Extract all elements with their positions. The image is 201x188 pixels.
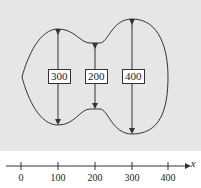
tick-label-200: 200 [88, 172, 103, 183]
width-label-200: 200 [85, 69, 108, 84]
width-label-300: 300 [48, 69, 71, 84]
tick-label-0: 0 [19, 172, 24, 183]
x-axis-label: x [191, 158, 195, 169]
region-diagram [0, 0, 201, 188]
tick-label-400: 400 [161, 172, 176, 183]
tick-label-100: 100 [51, 172, 66, 183]
width-label-400: 400 [122, 69, 145, 84]
tick-label-300: 300 [125, 172, 140, 183]
